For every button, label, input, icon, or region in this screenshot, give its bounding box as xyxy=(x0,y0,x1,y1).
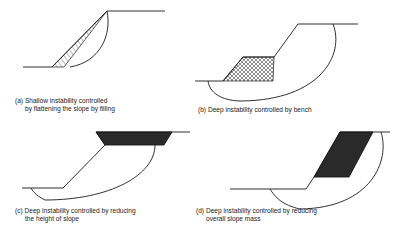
caption-d: (d) Deep instability controlled by reduc… xyxy=(196,207,317,223)
removed-crest-block xyxy=(96,132,172,145)
slip-surface xyxy=(31,145,155,200)
slope-stability-diagram xyxy=(0,0,395,237)
caption-c-line1: (c) Deep instability controlled by reduc… xyxy=(15,207,136,214)
caption-a: (a) Shallow instability controlled by fl… xyxy=(15,97,115,113)
caption-b: (b) Deep instability controlled by bench xyxy=(198,106,312,114)
caption-b-line1: (b) Deep instability controlled by bench xyxy=(198,106,312,113)
panel-b-diagram xyxy=(195,24,358,101)
ground-profile xyxy=(23,11,165,67)
caption-c: (c) Deep instability controlled by reduc… xyxy=(15,207,136,223)
caption-a-line1: (a) Shallow instability controlled xyxy=(15,97,107,104)
bench-fill xyxy=(223,57,274,81)
caption-d-line2: overall slope mass xyxy=(196,215,317,223)
panel-a-diagram xyxy=(23,11,165,67)
removed-slope-block xyxy=(314,132,373,177)
caption-d-line1: (d) Deep instability controlled by reduc… xyxy=(196,207,317,214)
slip-surface xyxy=(70,11,108,67)
caption-c-line2: the height of slope xyxy=(15,215,136,223)
caption-a-line2: by flattening the slope by filling xyxy=(15,105,115,113)
panel-c-diagram xyxy=(22,132,190,200)
panel-d-diagram xyxy=(230,132,390,209)
